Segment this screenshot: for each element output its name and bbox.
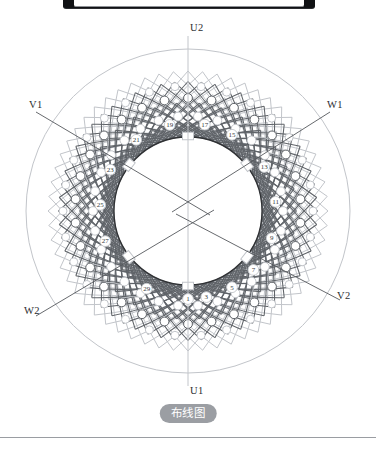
- coil-end-turn: [281, 263, 290, 272]
- coil-end-turn: [213, 297, 222, 306]
- coil-end-turn: [59, 207, 67, 215]
- coil-end-turn: [247, 99, 255, 107]
- coil-end-turn: [138, 310, 147, 319]
- coil-end-turn: [247, 315, 255, 323]
- coil-end-turn: [298, 258, 306, 266]
- coil-end-turn: [207, 96, 216, 105]
- coil-end-turn: [213, 116, 222, 125]
- coil-end-turn: [171, 83, 179, 91]
- slot-number-11: 11: [272, 198, 279, 206]
- slot-number-13: 13: [261, 163, 269, 171]
- coil-end-turn: [100, 131, 109, 140]
- coil-end-turn: [76, 242, 85, 251]
- coil-end-turn: [91, 187, 100, 196]
- terminal-label-U2: U2: [190, 22, 203, 33]
- coil-end-turn: [70, 156, 78, 164]
- coil-end-turn: [291, 172, 300, 181]
- coil-end-turn: [71, 195, 80, 204]
- coil-end-turn: [306, 181, 314, 189]
- coil-end-turn: [298, 156, 306, 164]
- terminal-label-V2: V2: [337, 290, 350, 301]
- slot-number-1: 1: [186, 295, 190, 303]
- coil-end-turn: [194, 301, 203, 310]
- coil-end-turn: [207, 317, 216, 326]
- coil-end-turn: [100, 300, 108, 308]
- coil-end-turn: [120, 136, 129, 145]
- coil-end-turn: [100, 114, 108, 122]
- coil-end-turn: [117, 115, 126, 124]
- coil-end-turn: [250, 298, 259, 307]
- terminal-label-W2: W2: [24, 305, 40, 316]
- coil-end-turn: [174, 112, 183, 121]
- terminal-label-V1: V1: [29, 99, 42, 110]
- coil-end-turn: [194, 112, 203, 121]
- coil-end-turn: [91, 226, 100, 235]
- coil-end-turn: [71, 218, 80, 227]
- coil-end-turn: [230, 103, 239, 112]
- coil-end-turn: [136, 124, 145, 133]
- slot-number-21: 21: [133, 136, 141, 144]
- coil-end-turn: [223, 326, 231, 334]
- coil-end-turn: [268, 114, 276, 122]
- coil-end-turn: [197, 331, 205, 339]
- coil-end-turn: [270, 168, 279, 177]
- coil-end-turn: [306, 233, 314, 241]
- coil-end-turn: [277, 187, 286, 196]
- slot-number-3: 3: [205, 293, 209, 301]
- wiring-diagram-page: 1357911131517192123252729 U2 U1 V1 W1 W2…: [0, 0, 376, 449]
- diagram-caption: 布线图: [160, 404, 217, 423]
- slot-number-23: 23: [107, 166, 115, 174]
- slot-number-17: 17: [201, 121, 209, 129]
- coil-end-turn: [70, 258, 78, 266]
- coil-end-turn: [97, 168, 106, 177]
- coil-end-turn: [268, 282, 277, 291]
- coil-end-turn: [268, 300, 276, 308]
- slot-number-19: 19: [166, 121, 174, 129]
- slot-number-7: 7: [252, 266, 256, 274]
- coil-end-turn: [268, 131, 277, 140]
- coil-end-turn: [247, 277, 256, 286]
- slot-number-29: 29: [143, 285, 151, 293]
- slot-number-5: 5: [230, 284, 234, 292]
- coil-end-turn: [76, 172, 85, 181]
- coil-end-turn: [296, 195, 305, 204]
- terminal-label-U1: U1: [190, 385, 203, 396]
- coil-end-turn: [86, 150, 95, 159]
- coil-end-turn: [285, 280, 293, 288]
- coil-end-turn: [197, 83, 205, 91]
- coil-end-turn: [62, 181, 70, 189]
- coil-end-turn: [160, 96, 169, 105]
- coil-end-turn: [62, 233, 70, 241]
- terminal-label-W1: W1: [327, 99, 343, 110]
- slot-number-27: 27: [102, 237, 110, 245]
- coil-end-turn: [160, 317, 169, 326]
- coil-end-turn: [250, 115, 259, 124]
- coil-end-turn: [223, 88, 231, 96]
- coil-end-turn: [270, 245, 279, 254]
- coil-end-turn: [86, 263, 95, 272]
- coil-end-turn: [122, 99, 130, 107]
- coil-end-turn: [145, 88, 153, 96]
- coil-end-turn: [117, 298, 126, 307]
- coil-end-turn: [309, 207, 317, 215]
- stator-winding-diagram: 1357911131517192123252729: [0, 0, 376, 449]
- coil-end-turn: [296, 218, 305, 227]
- coil-end-turn: [171, 331, 179, 339]
- coil-end-turn: [260, 262, 269, 271]
- coil-end-turn: [291, 242, 300, 251]
- coil-end-turn: [122, 315, 130, 323]
- coil-end-turn: [100, 282, 109, 291]
- slot-number-25: 25: [97, 201, 105, 209]
- slot-number-15: 15: [229, 131, 237, 139]
- coil-end-turn: [154, 297, 163, 306]
- bottom-divider: [0, 437, 376, 438]
- coil-end-turn: [279, 207, 288, 216]
- slot-number-9: 9: [270, 234, 274, 242]
- coil-end-turn: [174, 301, 183, 310]
- coil-end-turn: [145, 326, 153, 334]
- coil-end-turn: [154, 116, 163, 125]
- coil-end-turn: [277, 226, 286, 235]
